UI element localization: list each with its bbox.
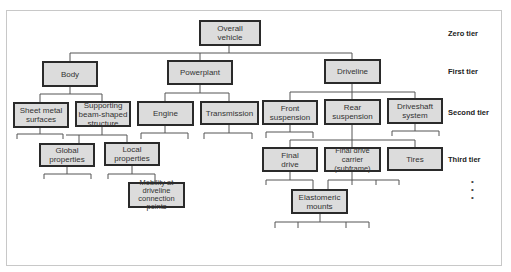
tier-label-first: First tier — [448, 67, 478, 76]
tier-label-zero: Zero tier — [448, 29, 478, 38]
node-driveshaft-system: Driveshaft system — [387, 98, 443, 124]
tier-label-third: Third tier — [448, 155, 481, 164]
node-rear-suspension: Rear suspension — [324, 99, 381, 125]
tier-label-second: Second tier — [448, 108, 489, 117]
node-body: Body — [42, 61, 98, 87]
node-transmission: Transmission — [200, 101, 259, 125]
node-tires: Tires — [387, 147, 443, 171]
node-engine: Engine — [137, 101, 194, 126]
continuation-dots-icon: • • • — [471, 178, 474, 202]
node-front-suspension: Front suspension — [262, 100, 318, 125]
node-sheet-metal-surfaces: Sheet metal surfaces — [13, 102, 69, 128]
node-powerplant: Powerplant — [167, 60, 233, 85]
node-global-properties: Global properties — [39, 143, 95, 167]
node-supporting-structure: Supporting beam-shaped structure — [75, 101, 131, 127]
node-overall-vehicle: Overall vehicle — [199, 20, 261, 46]
node-local-properties: Local properties — [104, 142, 160, 166]
node-driveline: Driveline — [324, 59, 381, 84]
node-elastomeric-mounts: Elastomeric mounts — [291, 189, 348, 214]
node-final-drive: Final drive — [262, 147, 318, 172]
node-final-drive-carrier: Final drive carrier (subframe) — [324, 147, 381, 172]
node-mobility-connection-points: Mobility at driveline connection points — [128, 182, 185, 208]
